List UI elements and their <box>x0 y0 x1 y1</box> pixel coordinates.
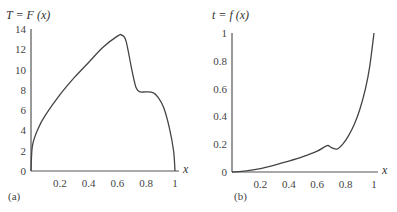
x-tick-label: 0.4 <box>282 178 296 190</box>
y-tick-label: 2 <box>21 145 27 157</box>
panel-label: (b) <box>234 190 247 203</box>
x-tick-label: 1 <box>172 177 178 189</box>
y-tick-label: 10 <box>15 64 27 76</box>
chart-title: t = f (x) <box>212 8 249 22</box>
y-tick-label: 0 <box>21 165 27 177</box>
chart-title: T = F (x) <box>6 8 50 22</box>
x-tick-label: 0.8 <box>339 178 353 190</box>
data-curve <box>31 34 175 171</box>
y-tick-label: 12 <box>15 43 26 55</box>
figure: T = F (x)024681012140.20.40.60.81x(a)t =… <box>0 0 397 212</box>
y-tick-label: 8 <box>21 84 27 96</box>
x-tick-label: 0.6 <box>111 177 125 189</box>
y-tick-label: 6 <box>21 104 27 116</box>
data-curve <box>232 33 374 172</box>
panel-label: (a) <box>8 190 21 203</box>
x-tick-label: 0.8 <box>139 177 153 189</box>
x-tick-label: 0.2 <box>53 177 67 189</box>
y-tick-label: 0.2 <box>213 138 227 150</box>
y-tick-label: 1 <box>222 27 228 39</box>
y-tick-label: 0.6 <box>213 83 227 95</box>
x-axis-label: x <box>381 163 388 177</box>
x-tick-label: 1 <box>371 178 377 190</box>
x-axis-label: x <box>182 162 189 176</box>
y-tick-label: 0.8 <box>213 55 227 67</box>
x-tick-label: 0.6 <box>310 178 324 190</box>
panel-a: T = F (x)024681012140.20.40.60.81x(a) <box>6 8 189 203</box>
panel-b: t = f (x)00.20.40.60.810.20.40.60.81x(b) <box>212 8 388 203</box>
y-tick-label: 0.4 <box>213 110 227 122</box>
x-tick-label: 0.2 <box>254 178 268 190</box>
y-tick-label: 0 <box>222 166 228 178</box>
x-tick-label: 0.4 <box>82 177 96 189</box>
y-tick-label: 14 <box>15 23 27 35</box>
y-tick-label: 4 <box>21 124 27 136</box>
